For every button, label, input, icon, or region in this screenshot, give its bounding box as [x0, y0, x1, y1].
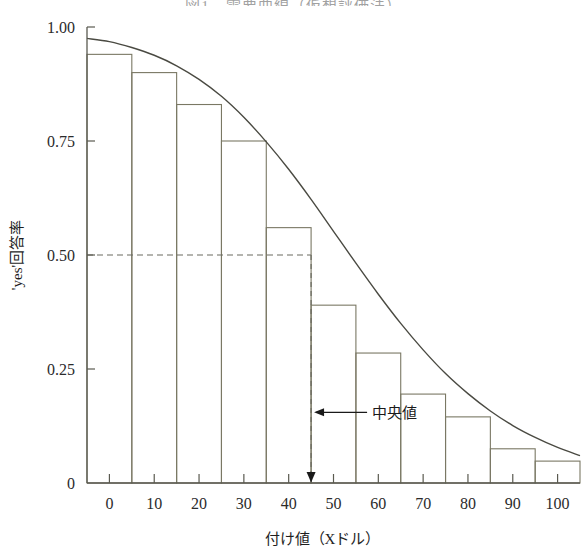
demand-curve-chart: 中央値 1.000.750.500.2500102030405060708090… [0, 0, 587, 553]
bars-layer [87, 54, 580, 483]
bar-80 [446, 417, 491, 483]
x-tick-label-60: 60 [370, 495, 386, 512]
x-tick-label-90: 90 [505, 495, 521, 512]
median-label-arrowhead [314, 408, 324, 416]
x-tick-label-50: 50 [326, 495, 342, 512]
bar-0 [87, 54, 132, 483]
x-tick-label-0: 0 [105, 495, 113, 512]
bar-40 [266, 228, 311, 483]
demand-curve-line [87, 38, 580, 455]
tick-labels-layer: 1.000.750.500.2500102030405060708090100 [47, 19, 570, 512]
curve-layer [87, 38, 580, 455]
bar-20 [177, 105, 222, 483]
x-tick-label-30: 30 [236, 495, 252, 512]
x-tick-label-40: 40 [281, 495, 297, 512]
x-tick-label-100: 100 [546, 495, 570, 512]
x-tick-label-70: 70 [415, 495, 431, 512]
median-down-arrowhead [307, 472, 316, 483]
median-annotation-label: 中央値 [372, 405, 417, 421]
x-tick-label-20: 20 [191, 495, 207, 512]
y-tick-label-0: 0 [67, 475, 75, 492]
y-axis-title: 'yes'回答率 [9, 220, 25, 290]
y-tick-label-0.25: 0.25 [47, 361, 75, 378]
bar-10 [132, 73, 177, 483]
bar-50 [311, 305, 356, 483]
y-tick-label-0.75: 0.75 [47, 133, 75, 150]
figure-container: 図1 需要曲線（仮想評価法） 中央値 1.000.750.500.2500102… [0, 0, 587, 553]
y-tick-label-0.50: 0.50 [47, 247, 75, 264]
bar-30 [221, 141, 266, 483]
y-tick-label-1.00: 1.00 [47, 19, 75, 36]
median-annotation-layer: 中央値 [87, 255, 417, 483]
x-tick-label-80: 80 [460, 495, 476, 512]
x-axis-title: 付け値（Xドル） [265, 531, 381, 547]
x-tick-label-10: 10 [146, 495, 162, 512]
